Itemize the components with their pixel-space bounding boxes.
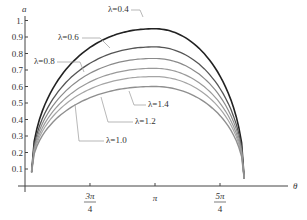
series-line [32,29,245,179]
curves [32,29,245,179]
x-axis-title: θ [293,181,298,191]
chart-svg: a θ 0.10.20.30.40.50.60.70.80.91. 3π4π5π… [0,0,307,220]
y-axis-title: a [22,4,27,14]
curve-labels: λ=0.4λ=0.6λ=0.8λ=1.4λ=1.2λ=1.0 [34,4,169,145]
y-tick-label: 0.7 [12,65,24,75]
y-tick-label: 0.8 [12,49,24,59]
leader-line [131,10,143,17]
y-ticks: 0.10.20.30.40.50.60.70.80.91. [12,16,28,175]
y-tick-label: 0.9 [12,32,24,42]
curve-label: λ=0.8 [34,56,55,66]
curve-label: λ=0.6 [58,32,79,42]
x-tick-label-denominator: 4 [88,204,93,214]
x-tick-label: 5π [215,191,225,201]
curve-label: λ=1.4 [148,99,169,109]
x-tick-label: 3π [84,191,95,201]
curve-label: λ=1.0 [106,135,127,145]
x-ticks: 3π4π5π4 [84,183,226,214]
y-tick-label: 1. [16,16,23,26]
x-tick-label: π [153,193,158,203]
y-tick-label: 0.6 [12,82,24,92]
chart-figure: a θ 0.10.20.30.40.50.60.70.80.91. 3π4π5π… [0,0,307,220]
y-tick-label: 0.1 [12,164,23,174]
x-tick-label-denominator: 4 [218,204,223,214]
curve-label: λ=0.4 [108,4,129,14]
series-line [32,77,245,179]
y-tick-label: 0.5 [12,98,24,108]
y-tick-label: 0.4 [12,115,24,125]
curve-label: λ=1.2 [135,116,156,126]
y-tick-label: 0.3 [12,131,24,141]
leader-line [101,97,133,122]
leader-line [129,91,146,105]
y-tick-label: 0.2 [12,148,23,158]
leader-line [75,104,104,141]
